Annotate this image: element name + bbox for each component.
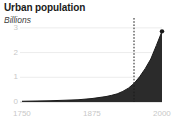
area-fill <box>22 31 162 102</box>
y-tick-label: 3 <box>4 23 18 32</box>
y-tick-label: 1 <box>4 72 18 81</box>
y-tick-label: 0 <box>4 97 18 106</box>
x-tick-label: 2000 <box>153 109 171 118</box>
plot-area <box>0 0 172 125</box>
x-tick-label: 1750 <box>13 109 31 118</box>
chart-figure: Urban population Billions 3210 175018752… <box>0 0 172 125</box>
area-series <box>22 31 162 102</box>
y-tick-label: 2 <box>4 48 18 57</box>
endpoint-marker <box>160 29 164 33</box>
x-tick-label: 1875 <box>83 109 101 118</box>
